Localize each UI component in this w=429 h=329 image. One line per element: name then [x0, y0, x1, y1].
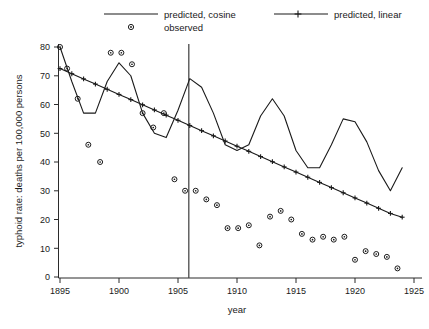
x-tick-label: 1915 [286, 286, 306, 296]
linear-plus-marker [364, 201, 369, 206]
series-predicted-cosine [60, 47, 402, 191]
observed-data-point [98, 160, 103, 165]
observed-data-point [119, 50, 124, 55]
observed-data-point [342, 234, 347, 239]
linear-plus-marker [400, 215, 405, 220]
observed-data-point [86, 142, 91, 147]
observed-data-point [129, 62, 134, 67]
observed-data-point [278, 208, 283, 213]
chart-legend: predicted, cosine observed predicted, li… [104, 9, 402, 33]
linear-plus-marker [235, 144, 240, 149]
x-tick-label: 1900 [109, 286, 129, 296]
y-tick-label: 0 [45, 272, 50, 282]
linear-plus-marker [117, 92, 122, 97]
observed-data-point [331, 237, 336, 242]
linear-plus-marker [258, 154, 263, 159]
legend-observed-swatch [128, 24, 133, 29]
observed-data-point [246, 223, 251, 228]
linear-plus-marker [353, 196, 358, 201]
legend-label-linear: predicted, linear [334, 9, 402, 20]
x-axis-title: year [228, 304, 246, 315]
x-tick-label: 1925 [404, 286, 424, 296]
observed-data-point [310, 237, 315, 242]
observed-data-point [395, 266, 400, 271]
linear-plus-marker [128, 97, 133, 102]
linear-plus-marker [294, 170, 299, 175]
y-tick-label: 10 [40, 244, 50, 254]
y-tick-label: 50 [40, 129, 50, 139]
x-tick-label: 1910 [227, 286, 247, 296]
chart-canvas: predicted, cosine observed predicted, li… [0, 0, 429, 329]
observed-data-point [214, 203, 219, 208]
linear-plus-marker [81, 77, 86, 82]
x-axis-ticks [60, 278, 414, 283]
observed-data-point [108, 50, 113, 55]
x-tick-label: 1920 [345, 286, 365, 296]
linear-plus-marker [246, 149, 251, 154]
x-tick-label: 1905 [168, 286, 188, 296]
observed-data-point [172, 177, 177, 182]
y-axis-ticks [54, 47, 59, 277]
observed-data-point [384, 254, 389, 259]
y-axis-title: typhoid rate: deaths per 100,000 persons [13, 74, 24, 247]
observed-data-point [204, 197, 209, 202]
observed-data-point [225, 226, 230, 231]
observed-data-point [268, 214, 273, 219]
linear-plus-marker [199, 128, 204, 133]
linear-plus-marker [305, 175, 310, 180]
x-tick-label: 1895 [50, 286, 70, 296]
observed-data-point [299, 231, 304, 236]
observed-data-point [321, 234, 326, 239]
observed-data-point [193, 188, 198, 193]
linear-trend-line [60, 69, 402, 218]
observed-data-point [183, 188, 188, 193]
observed-data-point [374, 252, 379, 257]
cosine-trend-line [60, 47, 402, 191]
observed-data-point [353, 257, 358, 262]
typhoid-rate-chart: predicted, cosine observed predicted, li… [0, 0, 429, 329]
linear-plus-marker [105, 87, 110, 92]
axes: 80 70 60 50 40 30 20 10 0 189 [13, 42, 424, 315]
linear-plus-marker [176, 118, 181, 123]
legend-label-cosine: predicted, cosine [164, 9, 236, 20]
linear-plus-marker [152, 108, 157, 113]
y-tick-label: 20 [40, 215, 50, 225]
linear-plus-marker [187, 123, 192, 128]
linear-plus-marker [341, 190, 346, 195]
observed-data-point [257, 243, 262, 248]
y-tick-label: 80 [40, 42, 50, 52]
y-tick-label: 30 [40, 186, 50, 196]
y-axis-tick-labels: 80 70 60 50 40 30 20 10 0 [40, 42, 50, 282]
legend-label-observed: observed [164, 22, 203, 33]
observed-data-point [363, 249, 368, 254]
linear-plus-marker [376, 206, 381, 211]
linear-plus-marker [329, 185, 334, 190]
x-axis-tick-labels: 1895 1900 1905 1910 1915 1920 1925 [50, 286, 424, 296]
linear-plus-marker [282, 164, 287, 169]
y-tick-label: 60 [40, 100, 50, 110]
observed-data-point [236, 226, 241, 231]
y-tick-label: 70 [40, 71, 50, 81]
linear-plus-marker [317, 180, 322, 185]
y-tick-label: 40 [40, 157, 50, 167]
observed-data-point [289, 217, 294, 222]
linear-plus-marker [93, 82, 98, 87]
linear-plus-marker [211, 133, 216, 138]
linear-plus-marker [270, 159, 275, 164]
legend-linear-swatch [274, 11, 328, 18]
series-predicted-linear [58, 66, 405, 219]
linear-plus-marker [388, 211, 393, 216]
